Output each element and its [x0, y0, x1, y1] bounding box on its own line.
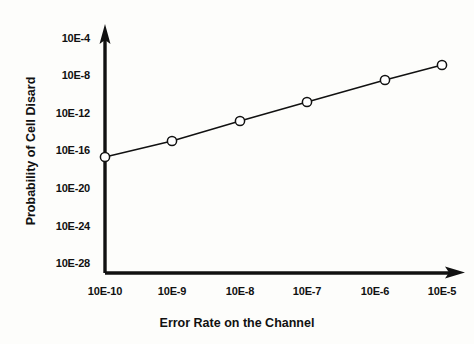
- y-axis-title: Probability of Cell Disard: [24, 36, 38, 266]
- data-point-marker: [235, 116, 244, 125]
- chart-container: 10E-410E-810E-1210E-1610E-2010E-2410E-28…: [0, 0, 474, 344]
- x-tick-label: 10E-5: [407, 285, 474, 297]
- data-point-marker: [167, 136, 176, 145]
- data-point-marker: [100, 152, 109, 161]
- x-tick-label: 10E-7: [272, 285, 342, 297]
- data-point-marker: [302, 97, 311, 106]
- x-tick-label: 10E-8: [205, 285, 275, 297]
- x-axis-title: Error Rate on the Channel: [0, 316, 474, 330]
- data-point-marker: [437, 60, 446, 69]
- x-tick-label: 10E-6: [340, 285, 410, 297]
- data-series-line: [105, 65, 442, 157]
- y-axis: [100, 24, 111, 273]
- data-point-marker: [380, 75, 389, 84]
- x-axis: [105, 267, 465, 279]
- x-tick-label: 10E-9: [137, 285, 207, 297]
- x-tick-label: 10E-10: [70, 285, 140, 297]
